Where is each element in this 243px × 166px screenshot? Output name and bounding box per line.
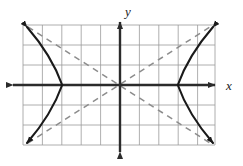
hyperbola-figure: y x <box>0 0 243 166</box>
graph-canvas: y x <box>0 0 243 166</box>
x-axis-label: x <box>225 78 232 93</box>
y-axis-label: y <box>123 4 131 19</box>
axes <box>13 22 215 152</box>
